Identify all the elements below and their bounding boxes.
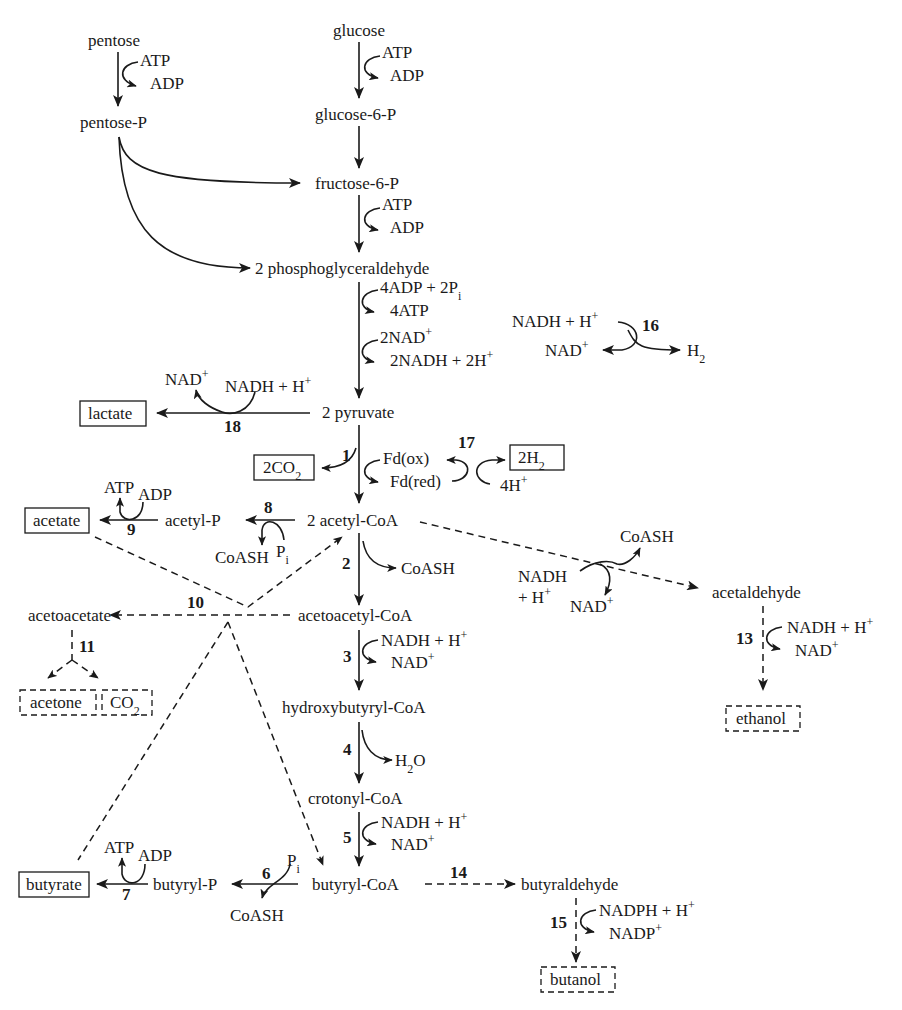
- cofactor-fd-ox: Fd(ox): [383, 449, 429, 468]
- cofactor-adp: ADP: [138, 485, 172, 504]
- cofactor-2nad: 2NAD+: [380, 325, 432, 347]
- cofactor-coash: CoASH: [230, 906, 284, 925]
- cofactor-nadh-h: NADH + H+: [512, 309, 598, 331]
- cofactor-arc-nadh-nad: [767, 627, 782, 649]
- arrow-to-h2o: [362, 730, 392, 760]
- product-lactate: lactate: [88, 404, 132, 423]
- reaction-10: 10: [187, 593, 204, 612]
- reaction-16: 16: [642, 316, 659, 335]
- reaction-13: 13: [736, 629, 753, 648]
- product-acetone: acetone: [30, 693, 82, 712]
- arrow-pentose-p-to-fructose-6-p: [119, 137, 300, 183]
- product-butyrate: butyrate: [26, 875, 82, 894]
- reaction-2: 2: [342, 554, 351, 573]
- product-h2o: H2O: [395, 751, 426, 776]
- compound-acetyl-p: acetyl-P: [165, 511, 221, 530]
- pathway-diagram: pentose ATP ADP pentose-P glucose ATP AD…: [0, 0, 902, 1010]
- compound-pyruvate: 2 pyruvate: [322, 403, 394, 422]
- cofactor-nadh-h: NADH + H+: [787, 615, 873, 637]
- reaction-9: 9: [127, 520, 136, 539]
- cofactor-plus-h: + H+: [518, 585, 551, 607]
- cofactor-arc-atp-adp: [123, 62, 138, 86]
- compound-acetoacetyl-coa: acetoacetyl-CoA: [298, 606, 413, 625]
- dashed-arrow-to-butyryl-coa: [228, 622, 323, 865]
- compound-acetaldehyde: acetaldehyde: [712, 583, 801, 602]
- cofactor-nad: NAD+: [391, 832, 435, 854]
- cofactor-nad: NAD+: [165, 367, 209, 389]
- cofactor-4atp: 4ATP: [390, 301, 429, 320]
- compound-butyraldehyde: butyraldehyde: [521, 875, 618, 894]
- cofactor-nadh-h: NADH + H+: [381, 628, 467, 650]
- product-2co2: 2CO2: [263, 458, 301, 483]
- cofactor-arc-nad-nadh: [362, 340, 378, 362]
- cofactor-coash: CoASH: [215, 548, 269, 567]
- arrow-pentose-p-to-pgald: [119, 137, 250, 268]
- cofactor-arc-nadph-nadp: [581, 910, 596, 932]
- cofactor-arc-fd: [365, 460, 380, 482]
- cofactor-arc-nadh-nad: [363, 822, 378, 844]
- reaction-6: 6: [262, 864, 271, 883]
- cofactor-arc-atp-adp: [365, 56, 380, 78]
- cofactor-arc-adp-atp: [362, 290, 378, 312]
- reaction-5: 5: [343, 828, 352, 847]
- cofactor-nadh: NADH: [518, 567, 567, 586]
- compound-butyryl-coa: butyryl-CoA: [312, 875, 400, 894]
- reaction-17: 17: [458, 433, 476, 452]
- compound-glucose: glucose: [333, 21, 385, 40]
- compound-acetyl-coa: 2 acetyl-CoA: [307, 511, 399, 530]
- compound-fructose-6-p: fructose-6-P: [315, 174, 399, 193]
- cofactor-nad: NAD+: [391, 650, 435, 672]
- compound-pentose-p: pentose-P: [80, 113, 147, 132]
- cofactor-nadh-h: NADH + H+: [381, 810, 467, 832]
- compound-crotonyl-coa: crotonyl-CoA: [308, 789, 403, 808]
- cofactor-coash: CoASH: [620, 527, 674, 546]
- reaction-7: 7: [122, 885, 131, 904]
- cofactor-nadh-h: NADH + H+: [225, 374, 311, 396]
- arrow-to-coash: [363, 541, 396, 568]
- compound-phosphoglyceraldehyde: 2 phosphoglyceraldehyde: [255, 259, 429, 278]
- dashed-arrow-to-acetone: [48, 660, 72, 678]
- cofactor-adp: ADP: [390, 66, 424, 85]
- reaction-4: 4: [343, 740, 352, 759]
- product-ethanol: ethanol: [736, 709, 786, 728]
- cofactor-4h: 4H+: [500, 473, 528, 495]
- arrow-to-nad: [600, 564, 610, 595]
- cofactor-atp: ATP: [104, 478, 134, 497]
- dashed-arrow-to-co2: [72, 660, 98, 678]
- cofactor-arc-nadh-nad: [363, 640, 378, 662]
- product-h2: H2: [687, 341, 705, 366]
- reaction-15: 15: [550, 913, 567, 932]
- cofactor-atp: ATP: [104, 838, 134, 857]
- compound-glucose-6-p: glucose-6-P: [315, 105, 396, 124]
- cofactor-nadp: NADP+: [609, 921, 662, 943]
- cofactor-adp: ADP: [138, 846, 172, 865]
- cofactor-nad: NAD+: [545, 338, 589, 360]
- reaction-18: 18: [224, 417, 241, 436]
- reaction-14: 14: [450, 863, 468, 882]
- reaction-8: 8: [264, 498, 273, 517]
- compound-hydroxybutyryl-coa: hydroxybutyryl-CoA: [282, 698, 426, 717]
- cofactor-atp: ATP: [140, 51, 170, 70]
- product-acetate: acetate: [33, 511, 80, 530]
- cofactor-nad: NAD+: [795, 638, 839, 660]
- cofactor-4adp-2pi: 4ADP + 2Pi: [380, 278, 462, 303]
- cofactor-fd-red: Fd(red): [390, 472, 441, 491]
- cofactor-2nadh: 2NADH + 2H+: [390, 348, 493, 370]
- compound-butyryl-p: butyryl-P: [153, 875, 217, 894]
- cofactor-nad: NAD+: [570, 594, 614, 616]
- cofactor-adp: ADP: [390, 218, 424, 237]
- reaction-11: 11: [79, 637, 95, 656]
- cofactor-atp: ATP: [382, 43, 412, 62]
- product-2h2: 2H2: [518, 448, 545, 473]
- compound-acetoacetate: acetoacetate: [28, 606, 111, 625]
- cofactor-pi: Pi: [287, 851, 300, 876]
- compound-pentose: pentose: [88, 31, 140, 50]
- cofactor-pi: Pi: [276, 542, 289, 567]
- cofactor-atp: ATP: [382, 195, 412, 214]
- arrow-to-fd-ox: [447, 460, 468, 481]
- product-butanol: butanol: [550, 970, 601, 989]
- cofactor-arc-atp-adp: [365, 208, 380, 230]
- cofactor-nadph-h: NADPH + H+: [599, 898, 695, 920]
- arrow-to-co2: [322, 448, 356, 468]
- cofactor-adp: ADP: [150, 74, 184, 93]
